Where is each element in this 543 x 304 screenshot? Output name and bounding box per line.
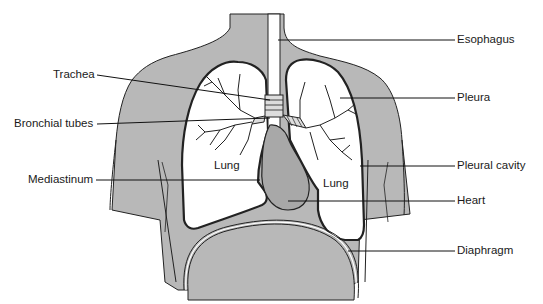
label-right-lung: Lung bbox=[323, 178, 349, 190]
trachea-rings bbox=[265, 95, 283, 117]
label-mediastinum: Mediastinum bbox=[28, 174, 93, 186]
label-heart: Heart bbox=[457, 195, 485, 207]
label-esophagus: Esophagus bbox=[457, 34, 515, 46]
label-pleura: Pleura bbox=[457, 92, 490, 104]
label-pleural-cavity: Pleural cavity bbox=[457, 160, 525, 172]
thorax-diagram bbox=[0, 0, 543, 304]
label-bronchial-tubes: Bronchial tubes bbox=[14, 118, 93, 130]
label-trachea: Trachea bbox=[53, 69, 95, 81]
label-left-lung: Lung bbox=[214, 160, 240, 172]
label-diaphragm: Diaphragm bbox=[457, 245, 513, 257]
